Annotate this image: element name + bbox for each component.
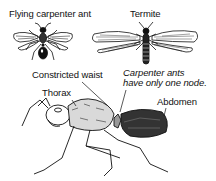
label-constricted-waist: Constricted waist — [32, 70, 103, 80]
flying-carpenter-ant-illustration — [14, 23, 73, 60]
illustration — [0, 0, 216, 181]
label-flying-carpenter-ant: Flying carpenter ant — [9, 9, 91, 19]
note-carpenter-ants-line2: have only one node. — [123, 78, 207, 88]
insect-comparison-diagram: Flying carpenter ant Termite Constricted… — [0, 0, 216, 181]
label-abdomen: Abdomen — [157, 97, 197, 107]
termite-illustration — [92, 22, 197, 64]
label-termite: Termite — [130, 9, 160, 19]
label-thorax: Thorax — [42, 88, 71, 98]
